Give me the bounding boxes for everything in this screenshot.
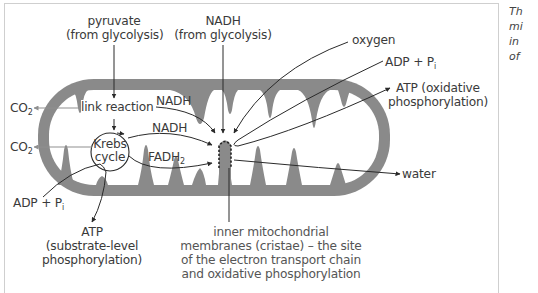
cristae-line3: of the electron transport chain (176, 253, 366, 267)
adp-pi-right-text: ADP + P (385, 55, 434, 69)
adp-pi-left-label: ADP + Pi (13, 196, 64, 210)
co2-bottom-text: CO (10, 140, 28, 154)
nadh-glycolysis-line1: NADH (174, 14, 272, 28)
caption-frag-2: in (509, 34, 523, 49)
fadh2-text: FADH (148, 150, 180, 164)
adp-pi-left-sub: i (62, 203, 64, 212)
cristae-line1: inner mitochondrial (176, 225, 366, 239)
nadh-glycolysis-line2: (from glycolysis) (174, 28, 272, 42)
nadh-krebs-label: NADH (152, 121, 187, 135)
co2-top-sub: 2 (28, 108, 33, 117)
atp-oxidative-label: ATP (oxidative phosphorylation) (386, 81, 490, 109)
caption-frag-3: of (509, 49, 523, 64)
adp-pi-left-text: ADP + P (13, 196, 62, 210)
co2-top-text: CO (10, 101, 28, 115)
atp-substrate-line3: phosphorylation) (40, 253, 144, 267)
fadh2-sub: 2 (180, 157, 185, 166)
co2-top-label: CO2 (10, 101, 33, 115)
cristae-label: inner mitochondrial membranes (cristae) … (176, 225, 366, 281)
nadh-glycolysis-label: NADH (from glycolysis) (174, 14, 272, 42)
krebs-cycle-label: Krebs cycle (92, 138, 128, 164)
nadh-link-label: NADH (156, 94, 191, 108)
fadh2-label: FADH2 (148, 150, 185, 164)
co2-bottom-label: CO2 (10, 140, 33, 154)
atp-substrate-label: ATP (substrate-level phosphorylation) (40, 225, 144, 267)
caption-frag-0: Th (509, 4, 523, 19)
atp-substrate-line1: ATP (40, 225, 144, 239)
adp-pi-right-label: ADP + Pi (385, 55, 436, 69)
krebs-line2: cycle (92, 151, 128, 164)
oxygen-label: oxygen (352, 33, 395, 47)
adp-pi-right-sub: i (434, 62, 436, 71)
atp-oxidative-line1: ATP (oxidative (386, 81, 490, 95)
pyruvate-label: pyruvate (from glycolysis) (66, 14, 162, 42)
pyruvate-line2: (from glycolysis) (66, 28, 162, 42)
cristae-line4: and oxidative phosphorylation (176, 267, 366, 281)
water-label: water (402, 167, 436, 181)
link-reaction-label: link reaction (81, 100, 154, 114)
side-caption: Thmiinof (509, 4, 523, 64)
cristae-line2: membranes (cristae) – the site (176, 239, 366, 253)
atp-substrate-line2: (substrate-level (40, 239, 144, 253)
co2-bottom-sub: 2 (28, 147, 33, 156)
pyruvate-line1: pyruvate (66, 14, 162, 28)
atp-oxidative-line2: phosphorylation) (386, 95, 490, 109)
caption-frag-1: mi (509, 19, 523, 34)
